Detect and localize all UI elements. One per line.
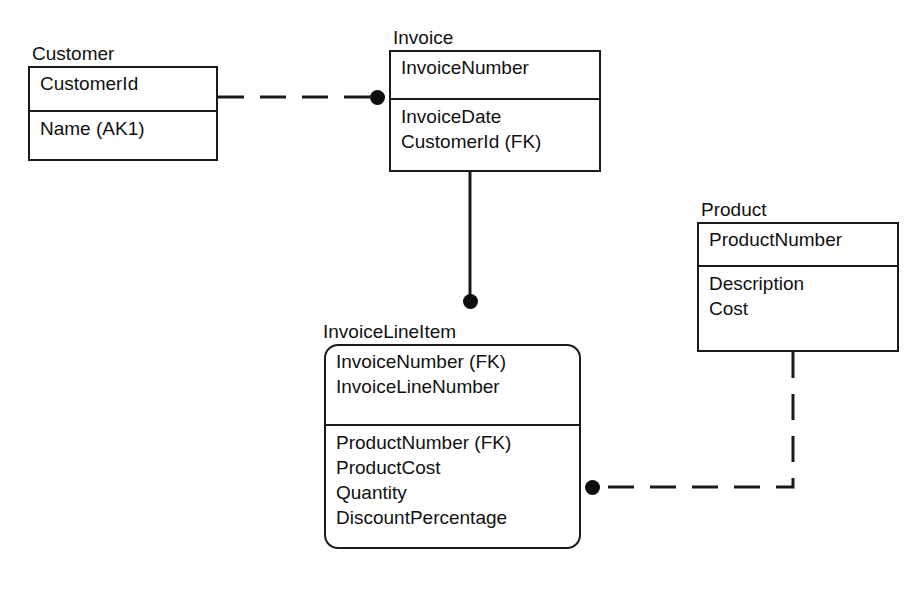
attribute-product-number: ProductNumber: [709, 227, 897, 252]
attribute-invoice-number: InvoiceNumber: [401, 55, 599, 80]
entity-key-section-invoice: InvoiceNumber: [391, 52, 599, 100]
attribute-ili-quantity: Quantity: [336, 480, 579, 505]
cardinality-dot-customer-invoice: [370, 90, 385, 105]
attribute-invoice-date: InvoiceDate: [401, 104, 599, 129]
entity-invoicelineitem[interactable]: InvoiceLineItem InvoiceNumber (FK) Invoi…: [324, 344, 581, 549]
entity-title-customer: Customer: [32, 43, 114, 65]
attribute-ili-product-cost: ProductCost: [336, 455, 579, 480]
attribute-ili-product-number-fk: ProductNumber (FK): [336, 430, 579, 455]
entity-invoice[interactable]: Invoice InvoiceNumber InvoiceDate Custom…: [389, 50, 601, 172]
entity-product[interactable]: Product ProductNumber Description Cost: [697, 222, 899, 352]
relationship-line-product-invoicelineitem: [592, 352, 793, 487]
entity-customer[interactable]: Customer CustomerId Name (AK1): [28, 66, 218, 161]
attribute-ili-invoice-number-fk: InvoiceNumber (FK): [336, 349, 579, 374]
entity-key-section-product: ProductNumber: [699, 224, 897, 267]
cardinality-dot-invoice-invoicelineitem: [463, 294, 478, 309]
entity-key-section-customer: CustomerId: [30, 68, 216, 112]
entity-title-product: Product: [701, 199, 766, 221]
attribute-invoice-customer-id-fk: CustomerId (FK): [401, 129, 599, 154]
attribute-product-cost: Cost: [709, 296, 897, 321]
entity-key-section-invoicelineitem: InvoiceNumber (FK) InvoiceLineNumber: [326, 346, 579, 426]
attribute-product-description: Description: [709, 271, 897, 296]
cardinality-dot-product-invoicelineitem: [585, 480, 600, 495]
entity-attr-section-invoicelineitem: ProductNumber (FK) ProductCost Quantity …: [326, 426, 579, 534]
entity-attr-section-product: Description Cost: [699, 267, 897, 325]
attribute-customer-name: Name (AK1): [40, 116, 216, 141]
entity-attr-section-customer: Name (AK1): [30, 112, 216, 145]
entity-title-invoicelineitem: InvoiceLineItem: [323, 321, 456, 343]
attribute-customer-id: CustomerId: [40, 71, 216, 96]
attribute-ili-discount-percentage: DiscountPercentage: [336, 505, 579, 530]
entity-attr-section-invoice: InvoiceDate CustomerId (FK): [391, 100, 599, 158]
attribute-ili-invoice-line-number: InvoiceLineNumber: [336, 374, 579, 399]
er-diagram-canvas: Customer CustomerId Name (AK1) Invoice I…: [0, 0, 920, 596]
entity-title-invoice: Invoice: [393, 27, 453, 49]
